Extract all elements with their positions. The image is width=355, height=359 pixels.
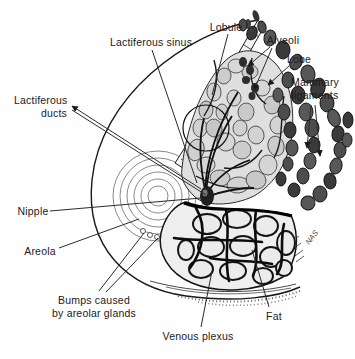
label-lobe: Lobe xyxy=(287,53,311,66)
label-bumps-areolar-glands: Bumps caused by areolar glands xyxy=(52,294,136,319)
artist-signature: NAS xyxy=(303,229,320,247)
bumps-leader-line xyxy=(99,233,144,291)
label-lobule: Lobule xyxy=(210,21,243,34)
label-alveoli: Alveoli xyxy=(267,34,299,47)
fat-region xyxy=(160,202,296,290)
bumps-leader-line xyxy=(106,238,158,292)
label-fat: Fat xyxy=(266,310,282,323)
nipple-structure xyxy=(200,186,214,206)
label-areola: Areola xyxy=(24,245,56,258)
label-lactiferous-sinus: Lactiferous sinus xyxy=(110,36,192,49)
areola-leader-line xyxy=(59,219,139,248)
breast-anatomy-diagram: NAS Lobule Lactiferous sinus Alveoli Lob… xyxy=(0,0,355,359)
label-mammary-ligaments: Mammary ligaments xyxy=(291,76,339,101)
label-lactiferous-ducts: Lactiferous ducts xyxy=(14,94,67,120)
label-venous-plexus: Venous plexus xyxy=(163,330,234,343)
label-nipple: Nipple xyxy=(18,205,49,218)
lactiferous-ducts-leader-line xyxy=(72,106,201,189)
